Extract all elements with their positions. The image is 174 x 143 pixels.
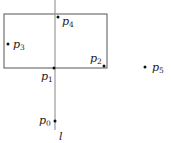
point-p2-label: p2: [90, 52, 102, 66]
point-p2-marker: [103, 65, 106, 68]
point-p1-label: p1: [41, 70, 53, 84]
point-p5-label: p5: [152, 61, 164, 75]
line-label: l: [59, 130, 63, 143]
point-p5-marker: [144, 66, 147, 69]
point-p4-marker: [57, 16, 60, 19]
point-p0-label: p0: [39, 114, 51, 128]
point-p3-marker: [7, 43, 10, 46]
diagram-canvas: l p0p1p2p3p4p5: [0, 0, 174, 143]
point-p4-label: p4: [62, 15, 74, 29]
point-p1-marker: [53, 67, 56, 70]
points-group: p0p1p2p3p4p5: [7, 15, 165, 128]
point-p3-label: p3: [13, 38, 25, 52]
point-p0-marker: [54, 120, 57, 123]
